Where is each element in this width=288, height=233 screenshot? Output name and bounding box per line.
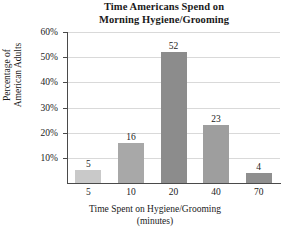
bar: 5 bbox=[75, 170, 101, 183]
y-axis-title-line-1: Percentage of bbox=[2, 43, 14, 108]
y-axis-tick bbox=[63, 108, 67, 109]
y-axis-title-line-2: American Adults bbox=[13, 43, 25, 108]
y-axis-tick-label: 30% bbox=[28, 103, 58, 113]
y-axis-tick bbox=[63, 82, 67, 83]
chart-title-line-2: Morning Hygiene/Grooming bbox=[44, 14, 284, 27]
bar: 4 bbox=[246, 173, 272, 183]
y-axis-tick bbox=[63, 57, 67, 58]
x-axis-title: Time Spent on Hygiene/Grooming (minutes) bbox=[30, 203, 280, 227]
x-axis-tick-label: 5 bbox=[68, 187, 108, 197]
x-axis-tick-label: 40 bbox=[196, 187, 236, 197]
x-axis-title-line-2: (minutes) bbox=[30, 215, 280, 227]
x-axis-tick-label: 70 bbox=[239, 187, 279, 197]
x-axis-line bbox=[67, 183, 281, 184]
chart-figure: Time Americans Spend on Morning Hygiene/… bbox=[0, 0, 288, 233]
bar-value-label: 23 bbox=[211, 114, 221, 124]
chart-title-line-1: Time Americans Spend on bbox=[44, 1, 284, 14]
bar: 16 bbox=[118, 143, 144, 183]
chart-title: Time Americans Spend on Morning Hygiene/… bbox=[44, 1, 284, 26]
bar-value-label: 4 bbox=[256, 162, 261, 172]
bar-value-label: 5 bbox=[86, 159, 91, 169]
y-axis-tick-label: 60% bbox=[28, 27, 58, 37]
gridline bbox=[68, 32, 280, 33]
x-axis-tick-label: 20 bbox=[154, 187, 194, 197]
y-axis-tick bbox=[63, 133, 67, 134]
y-axis-tick-label: 20% bbox=[28, 128, 58, 138]
plot-area: 10%20%30%40%50%60%55161052202340470 bbox=[67, 32, 280, 183]
x-axis-title-line-1: Time Spent on Hygiene/Grooming bbox=[30, 203, 280, 215]
bar-value-label: 52 bbox=[169, 41, 179, 51]
bar: 23 bbox=[203, 125, 229, 183]
y-axis-tick bbox=[63, 32, 67, 33]
y-axis-tick-label: 40% bbox=[28, 77, 58, 87]
y-axis-title: Percentage of American Adults bbox=[0, 15, 26, 135]
y-axis-tick bbox=[63, 158, 67, 159]
bar: 52 bbox=[161, 52, 187, 183]
y-axis-tick-label: 50% bbox=[28, 52, 58, 62]
x-axis-tick-label: 10 bbox=[111, 187, 151, 197]
bar-value-label: 16 bbox=[126, 132, 136, 142]
y-axis-tick-label: 10% bbox=[28, 153, 58, 163]
